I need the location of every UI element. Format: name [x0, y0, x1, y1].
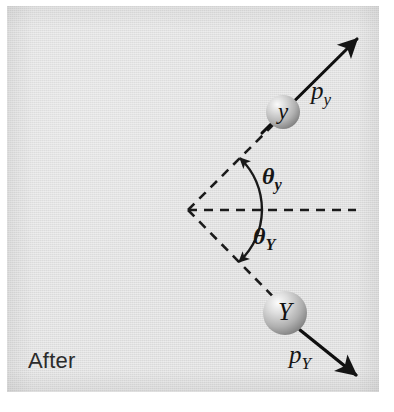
angle-label-theta-Y-base: θ — [253, 223, 265, 249]
stage-label-after: After — [28, 348, 75, 374]
momentum-label-p-y-subscript: y — [324, 90, 332, 109]
angle-label-theta-y-base: θ — [262, 163, 274, 189]
particle-label-Y: Y — [273, 299, 297, 324]
particle-label-y: y — [272, 100, 294, 123]
momentum-label-p-Y: pY — [289, 342, 311, 372]
angle-label-theta-Y: θY — [253, 224, 275, 253]
momentum-label-p-y-base: p — [311, 77, 324, 104]
angle-label-theta-y-subscript: y — [274, 175, 281, 194]
momentum-label-p-y: py — [311, 78, 331, 108]
physics-figure-after-collision: y Y py pY θy θY After — [0, 0, 394, 412]
momentum-label-p-Y-subscript: Y — [302, 354, 311, 373]
angle-label-theta-y: θy — [262, 164, 282, 193]
angle-arc-theta-y — [240, 158, 262, 210]
momentum-label-p-Y-base: p — [289, 341, 302, 368]
angle-label-theta-Y-subscript: Y — [265, 235, 275, 254]
